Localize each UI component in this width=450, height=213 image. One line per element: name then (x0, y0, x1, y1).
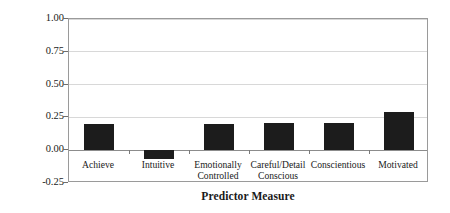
x-axis-tick-mark (249, 150, 250, 154)
x-axis-tick-mark (309, 150, 310, 154)
y-axis-tick-label: 0.50 (30, 79, 64, 89)
bar (84, 124, 114, 150)
bar (264, 123, 294, 151)
plot-area (68, 18, 428, 182)
y-axis-tick-mark (63, 149, 68, 150)
x-axis-tick-mark (369, 150, 370, 154)
y-axis-tick-label: 0.00 (30, 144, 64, 154)
bar (144, 150, 174, 159)
y-axis-tick-mark (63, 18, 68, 19)
x-axis-tick-mark (189, 150, 190, 154)
bar (384, 112, 414, 150)
gridline (69, 19, 428, 20)
y-axis-tick-label: -0.25 (30, 177, 64, 187)
y-axis-tick-mark (63, 182, 68, 183)
y-axis-tick-labels: 1.000.750.500.250.00-0.25 (28, 0, 64, 213)
y-axis-tick-label: 0.25 (30, 111, 64, 121)
y-axis-tick-label: 1.00 (30, 13, 64, 23)
y-axis-tick-mark (63, 116, 68, 117)
gridline (69, 51, 428, 52)
x-axis-category-label: Motivated (361, 160, 435, 171)
bar-chart: Correlation With Cognitive 1.000.750.500… (0, 0, 450, 213)
y-axis-tick-label: 0.75 (30, 46, 64, 56)
bar (204, 124, 234, 150)
gridline (69, 84, 428, 85)
y-axis-tick-mark (63, 84, 68, 85)
bar (324, 123, 354, 151)
x-axis-category-labels: AchieveIntuitiveEmotionally ControlledCa… (68, 160, 428, 182)
x-axis-tick-mark (129, 150, 130, 154)
y-axis-tick-mark (63, 51, 68, 52)
gridline (69, 117, 428, 118)
x-axis-title: Predictor Measure (68, 190, 428, 202)
